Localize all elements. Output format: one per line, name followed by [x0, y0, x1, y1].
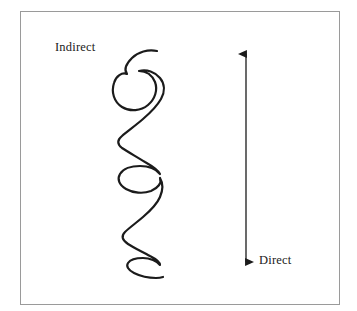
label-direct: Direct [259, 254, 291, 267]
figure-container: Indirect Direct [0, 0, 357, 311]
diagram-artwork [0, 0, 357, 311]
label-indirect: Indirect [55, 41, 95, 54]
squiggly-path [113, 50, 164, 278]
